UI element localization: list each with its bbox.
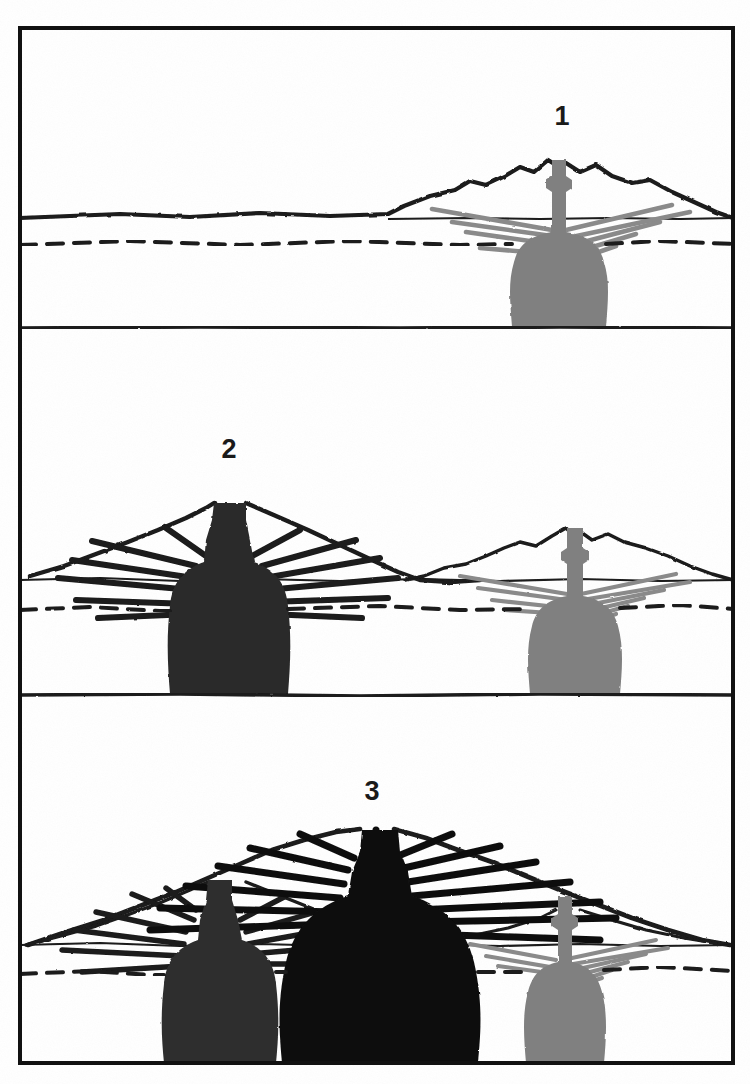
panel-1-number: 1 <box>554 101 569 131</box>
panel-2-base-line <box>20 694 733 696</box>
panel-2-number: 2 <box>221 434 236 464</box>
figure-root: 1 <box>0 0 750 1084</box>
panel-3-number: 3 <box>364 776 379 806</box>
volcano-growth-diagram: 1 <box>0 0 750 1084</box>
panel-1-base-line <box>20 327 733 328</box>
